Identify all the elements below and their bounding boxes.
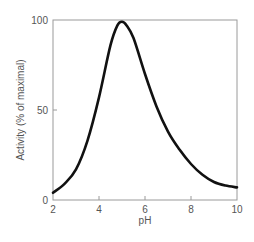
plot-border xyxy=(53,20,237,200)
x-tick-label: 4 xyxy=(96,204,102,215)
x-tick-label: 8 xyxy=(188,204,194,215)
x-tick-label: 10 xyxy=(231,204,243,215)
x-axis-label: pH xyxy=(139,215,152,226)
y-tick-label: 0 xyxy=(42,195,48,206)
y-tick-label: 100 xyxy=(31,15,48,26)
x-tick-label: 2 xyxy=(50,204,56,215)
plot-frame xyxy=(53,20,237,200)
activity-vs-ph-chart: 246810050100 pH Activity (% of maximal) xyxy=(0,0,254,242)
y-axis-label: Activity (% of maximal) xyxy=(15,59,26,160)
y-tick-label: 50 xyxy=(37,105,49,116)
activity-curve xyxy=(53,22,237,193)
x-tick-label: 6 xyxy=(142,204,148,215)
